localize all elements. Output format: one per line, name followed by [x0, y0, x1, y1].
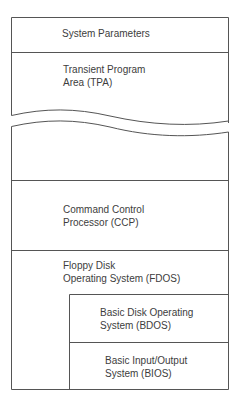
- label-line: Basic Disk Operating: [100, 307, 193, 320]
- label-line: System (BDOS): [100, 320, 193, 333]
- break-wave-upper: [12, 110, 229, 124]
- label-line: Operating System (FDOS): [63, 273, 180, 286]
- lower-outline: [12, 127, 229, 390]
- bdos-label: Basic Disk Operating System (BDOS): [100, 307, 193, 332]
- label-line: Basic Input/Output: [105, 355, 187, 368]
- tpa-label: Transient Program Area (TPA): [63, 64, 145, 89]
- label-line: Command Control: [63, 204, 144, 217]
- bios-label: Basic Input/Output System (BIOS): [105, 355, 187, 380]
- label-line: Floppy Disk: [63, 260, 180, 273]
- ccp-label: Command Control Processor (CCP): [63, 204, 144, 229]
- memory-map-frame: [0, 0, 242, 402]
- label-line: Transient Program: [63, 64, 145, 77]
- system-parameters-label: System Parameters: [62, 28, 150, 41]
- label-line: Area (TPA): [63, 77, 145, 90]
- fdos-label: Floppy Disk Operating System (FDOS): [63, 260, 180, 285]
- break-wave-lower: [12, 121, 229, 136]
- label-line: System Parameters: [62, 28, 150, 41]
- label-line: System (BIOS): [105, 368, 187, 381]
- label-line: Processor (CCP): [63, 217, 144, 230]
